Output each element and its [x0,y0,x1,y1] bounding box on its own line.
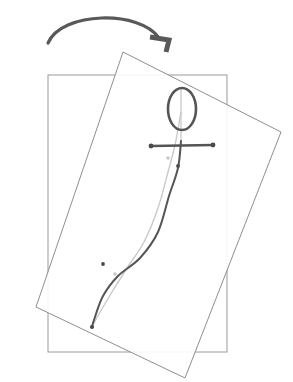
figure-svg [0,0,293,382]
control-dot-4 [113,272,117,276]
control-dot-2 [176,164,180,168]
rotation-direction-arrow [48,18,159,43]
rotated-rectangle-group [36,52,281,378]
control-dot-3 [101,262,105,266]
arms-bar [151,145,213,146]
arm-endpoint-dot-left [149,144,154,149]
arm-endpoint-dot-right [211,143,216,148]
control-dot-1 [166,156,170,160]
control-dot-endpoint [90,325,94,329]
diagram-canvas [0,0,293,382]
arrowhead-icon [150,37,169,52]
rotated-bounding-rectangle [36,52,281,378]
rotation-arrow-group [48,18,169,52]
